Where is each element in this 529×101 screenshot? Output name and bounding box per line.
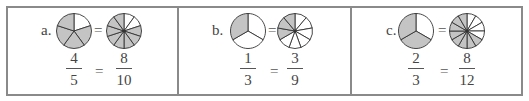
- denominator: 5: [59, 72, 89, 88]
- denominator: 3: [401, 72, 431, 88]
- fraction-bar: [116, 68, 132, 69]
- denominator: 9: [280, 72, 310, 88]
- numerator: 4: [59, 50, 89, 66]
- fraction-bar: [459, 68, 475, 69]
- fraction-bar: [408, 68, 424, 69]
- panel-label: b.: [212, 22, 223, 39]
- panel-a: a. = 4 5 = 8 10: [8, 8, 177, 94]
- numerator: 2: [401, 50, 431, 66]
- fraction-right: 8 12: [452, 50, 482, 88]
- pie-chart-right: [105, 12, 143, 50]
- fraction-right: 3 9: [280, 50, 310, 88]
- pie-chart-left: [229, 12, 267, 50]
- numerator: 3: [280, 50, 310, 66]
- fraction-right: 8 10: [109, 50, 139, 88]
- fraction-left: 4 5: [59, 50, 89, 88]
- fraction-bar: [287, 68, 303, 69]
- pie-chart-left: [55, 12, 93, 50]
- panel-c: c. = 2 3 = 8 12: [352, 8, 519, 94]
- denominator: 12: [452, 72, 482, 88]
- denominator: 3: [233, 72, 263, 88]
- pie-chart-left: [397, 12, 435, 50]
- fraction-left: 2 3: [401, 50, 431, 88]
- panel-label: c.: [386, 22, 396, 39]
- numerator: 8: [109, 50, 139, 66]
- numerator: 8: [452, 50, 482, 66]
- fraction-left: 1 3: [233, 50, 263, 88]
- equals-sign: =: [94, 22, 102, 39]
- fraction-equals-sign: =: [270, 63, 278, 80]
- pie-chart-right: [276, 12, 314, 50]
- equals-sign: =: [438, 22, 446, 39]
- panel-label: a.: [41, 22, 51, 39]
- panel-b: b. = 1 3 = 3 9: [179, 8, 350, 94]
- numerator: 1: [233, 50, 263, 66]
- pie-chart-right: [448, 12, 486, 50]
- denominator: 10: [109, 72, 139, 88]
- fraction-bar: [240, 68, 256, 69]
- fraction-equals-sign: =: [440, 63, 448, 80]
- fraction-equals-sign: =: [95, 63, 103, 80]
- fraction-bar: [66, 68, 82, 69]
